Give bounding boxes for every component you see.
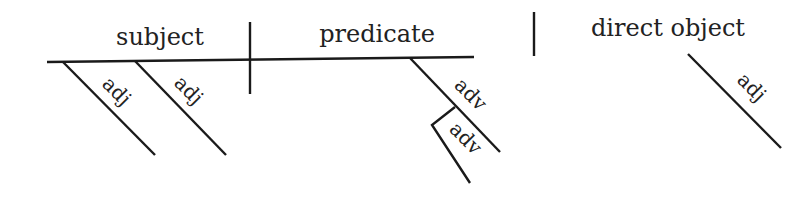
- subject-adj-1-label: adj: [98, 72, 137, 111]
- predicate-adv-label: adv: [450, 73, 493, 116]
- sentence-diagram: subject predicate direct object adj adj …: [0, 0, 807, 197]
- direct-object-label: direct object: [591, 14, 745, 42]
- predicate-label: predicate: [319, 20, 435, 48]
- subject-label: subject: [116, 23, 204, 51]
- object-adj-line: [688, 54, 781, 148]
- subject-adj-2-line: [135, 61, 226, 155]
- object-adj-label: adj: [733, 68, 772, 107]
